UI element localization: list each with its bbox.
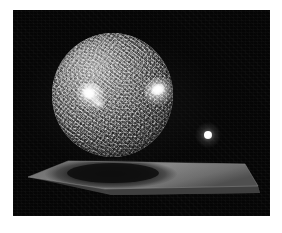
light-sphere xyxy=(204,131,212,139)
ground-platform xyxy=(13,150,270,216)
render-frame xyxy=(13,10,270,216)
scene-page: A large gray mottled sphere with two bri… xyxy=(0,0,282,233)
platform-svg xyxy=(13,150,270,216)
main-sphere xyxy=(52,33,173,157)
sphere-limb-darkening xyxy=(52,33,173,157)
cast-shadow-core xyxy=(67,163,159,183)
